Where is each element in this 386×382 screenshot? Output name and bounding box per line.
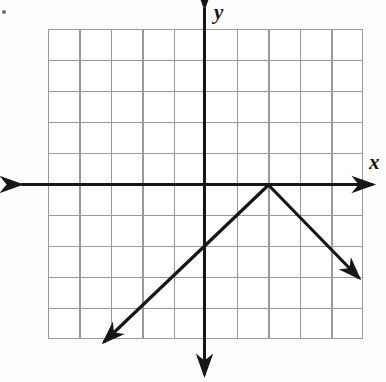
coordinate-plane bbox=[0, 0, 386, 382]
x-axis-label: x bbox=[369, 152, 380, 173]
graph-screenshot: x y bbox=[0, 0, 386, 382]
y-axis-label: y bbox=[214, 2, 223, 23]
